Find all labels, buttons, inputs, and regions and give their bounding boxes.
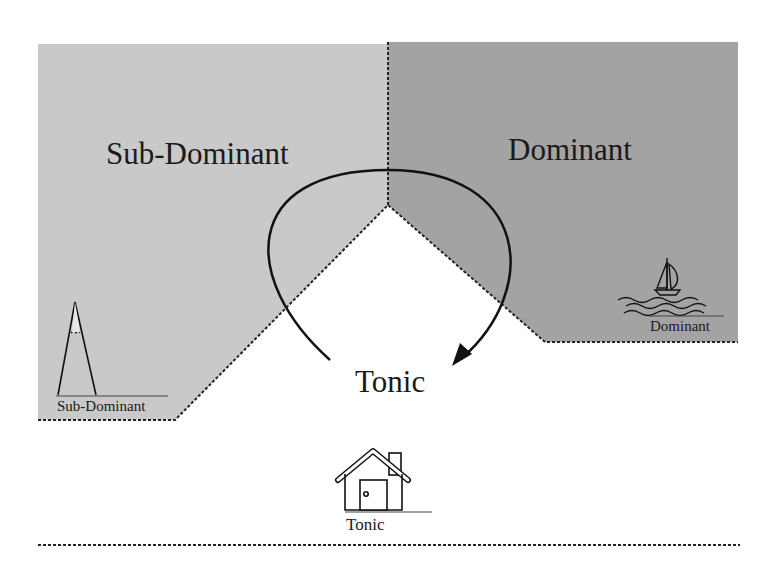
arrowhead-icon: [452, 343, 472, 366]
mountain-caption: Sub-Dominant: [57, 398, 145, 415]
subdominant-label: Sub-Dominant: [106, 136, 289, 172]
house-caption: Tonic: [346, 515, 384, 535]
dominant-label: Dominant: [508, 132, 632, 168]
tonic-label: Tonic: [355, 364, 425, 400]
dominant-region: [388, 42, 738, 342]
harmonic-function-diagram: [0, 0, 762, 573]
sailboat-caption: Dominant: [650, 318, 710, 335]
subdominant-region: [38, 44, 388, 420]
house-icon: [338, 451, 408, 510]
